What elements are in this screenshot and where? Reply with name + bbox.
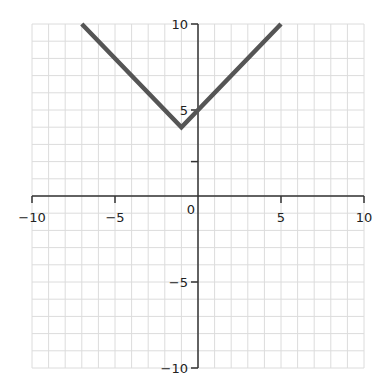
y-tick-label: 10: [171, 17, 188, 32]
y-tick-label: 5: [180, 103, 188, 118]
x-tick-label: −5: [105, 210, 124, 225]
x-tick-label: 5: [277, 210, 285, 225]
x-tick-label: 0: [187, 202, 195, 217]
y-tick-label: −10: [161, 361, 188, 376]
y-tick-label: −5: [169, 275, 188, 290]
x-tick-label: −10: [18, 210, 45, 225]
x-tick-label: 10: [356, 210, 373, 225]
coordinate-plane: −10−50510105−5−10: [0, 0, 384, 390]
